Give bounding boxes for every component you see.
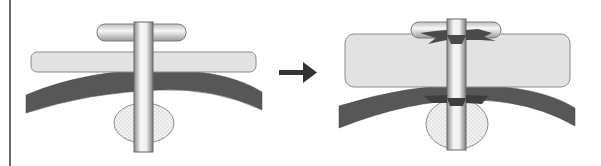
diagram-svg xyxy=(0,0,601,166)
diagram-canvas xyxy=(0,0,601,166)
rod xyxy=(134,22,153,152)
before-panel xyxy=(26,22,262,152)
arrow-right-icon xyxy=(279,62,317,83)
after-panel xyxy=(339,19,575,150)
